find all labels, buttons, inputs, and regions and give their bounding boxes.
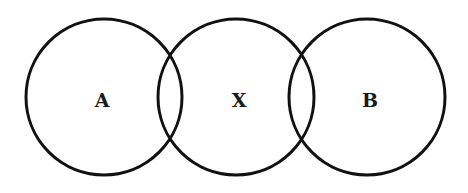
venn-diagram: A X B [0, 0, 468, 193]
label-x: X [232, 89, 247, 111]
label-a: A [94, 89, 110, 111]
label-b: B [362, 89, 378, 111]
